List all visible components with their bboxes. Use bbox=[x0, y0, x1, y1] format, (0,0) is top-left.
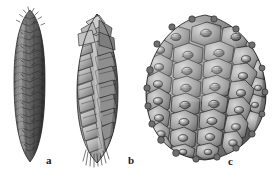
specimen-label-a: a bbox=[46, 155, 52, 166]
figure-plate: a b c bbox=[0, 0, 275, 178]
illustration-canvas bbox=[0, 0, 275, 178]
specimen-label-b: b bbox=[128, 155, 134, 166]
specimen-label-c: c bbox=[228, 156, 233, 167]
